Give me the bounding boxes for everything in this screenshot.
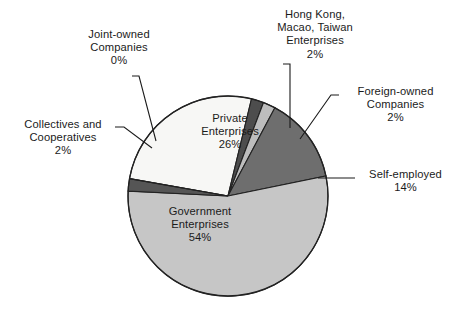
slice-label-hong-kong-macao-taiwan: Hong Kong, Macao, Taiwan Enterprises 2%: [246, 8, 384, 61]
slice-label-line: Enterprises: [175, 125, 285, 138]
slice-label-government-enterprises: Government Enterprises 54%: [140, 205, 260, 245]
slice-label-line: Collectives and: [2, 118, 124, 131]
slice-label-line: Enterprises: [246, 34, 384, 47]
slice-label-joint-owned-companies: Joint-owned Companies 0%: [60, 28, 178, 68]
slice-value: 26%: [175, 138, 285, 151]
slice-label-line: Macao, Taiwan: [246, 21, 384, 34]
slice-value: 2%: [2, 144, 124, 157]
slice-label-line: Joint-owned: [60, 28, 178, 41]
slice-label-self-employed: Self-employed 14%: [356, 168, 455, 194]
slice-label-line: Companies: [338, 98, 453, 111]
slice-label-line: Companies: [60, 41, 178, 54]
slice-label-foreign-owned-companies: Foreign-owned Companies 2%: [338, 85, 453, 125]
slice-label-line: Foreign-owned: [338, 85, 453, 98]
slice-value: 2%: [338, 111, 453, 124]
slice-label-line: Enterprises: [140, 218, 260, 231]
slice-value: 2%: [246, 48, 384, 61]
slice-label-line: Self-employed: [356, 168, 455, 181]
slice-label-line: Hong Kong,: [246, 8, 384, 21]
slice-value: 0%: [60, 54, 178, 67]
slice-value: 14%: [356, 181, 455, 194]
slice-value: 54%: [140, 231, 260, 244]
slice-label-private-enterprises: Private Enterprises 26%: [175, 112, 285, 152]
slice-label-line: Cooperatives: [2, 131, 124, 144]
slice-label-collectives-and-cooperatives: Collectives and Cooperatives 2%: [2, 118, 124, 158]
slice-label-line: Private: [175, 112, 285, 125]
pie-chart: Joint-owned Companies 0% Collectives and…: [0, 0, 455, 311]
slice-label-line: Government: [140, 205, 260, 218]
